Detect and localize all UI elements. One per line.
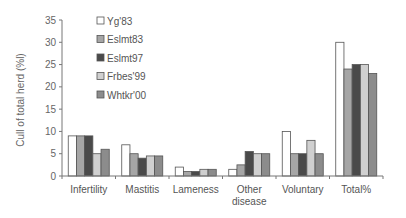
x-category-label: Total% xyxy=(341,184,371,195)
bar xyxy=(245,151,253,176)
bar xyxy=(155,156,163,176)
legend-label: Yg'83 xyxy=(107,16,133,27)
bar xyxy=(282,131,290,176)
y-tick-label: 10 xyxy=(45,126,57,137)
y-axis: 05101520253035 xyxy=(45,15,62,182)
y-tick-label: 0 xyxy=(50,171,56,182)
bar xyxy=(208,169,216,176)
bar xyxy=(138,158,146,176)
bar xyxy=(175,167,183,176)
bar xyxy=(146,156,154,176)
bar xyxy=(352,65,360,176)
y-tick-label: 20 xyxy=(45,81,57,92)
bar xyxy=(183,172,191,176)
bar xyxy=(360,65,368,176)
y-tick-label: 15 xyxy=(45,104,57,115)
x-axis: InfertilityMastitisLamenessOtherdiseaseV… xyxy=(62,176,383,207)
legend-swatch xyxy=(97,36,104,43)
bar xyxy=(237,165,245,176)
bar xyxy=(85,136,93,176)
legend: Yg'83Eslmt83Eslmt97Frbes'99Whtkr'00 xyxy=(97,16,147,101)
bar xyxy=(93,154,101,176)
legend-label: Eslmt83 xyxy=(107,34,144,45)
bar xyxy=(200,169,208,176)
bar xyxy=(122,145,130,176)
bar xyxy=(307,140,315,176)
bar xyxy=(290,154,298,176)
legend-label: Frbes'99 xyxy=(107,71,146,82)
bar xyxy=(344,69,352,176)
legend-swatch xyxy=(97,91,104,98)
y-tick-label: 5 xyxy=(50,148,56,159)
x-category-label: disease xyxy=(232,196,267,207)
legend-label: Whtkr'00 xyxy=(107,90,147,101)
bar xyxy=(299,154,307,176)
legend-swatch xyxy=(97,17,104,24)
bar xyxy=(130,154,138,176)
legend-swatch xyxy=(97,54,104,61)
bar xyxy=(101,149,109,176)
bar xyxy=(369,73,377,176)
legend-label: Eslmt97 xyxy=(107,53,144,64)
y-tick-label: 30 xyxy=(45,37,57,48)
bar xyxy=(253,154,261,176)
bar xyxy=(315,154,323,176)
bar xyxy=(262,154,270,176)
x-category-label: Infertility xyxy=(70,184,107,195)
x-category-label: Mastitis xyxy=(125,184,159,195)
bar xyxy=(68,136,76,176)
bar-chart: Cull of total herd (%l) 05101520253035 I… xyxy=(0,0,406,218)
bar xyxy=(76,136,84,176)
bar xyxy=(336,42,344,176)
bar xyxy=(229,169,237,176)
y-tick-label: 35 xyxy=(45,15,57,26)
y-tick-label: 25 xyxy=(45,59,57,70)
x-category-label: Other xyxy=(237,184,263,195)
y-axis-title: Cull of total herd (%l) xyxy=(15,53,26,146)
x-category-label: Voluntary xyxy=(282,184,324,195)
bar xyxy=(192,172,200,176)
x-category-label: Lameness xyxy=(173,184,219,195)
legend-swatch xyxy=(97,73,104,80)
